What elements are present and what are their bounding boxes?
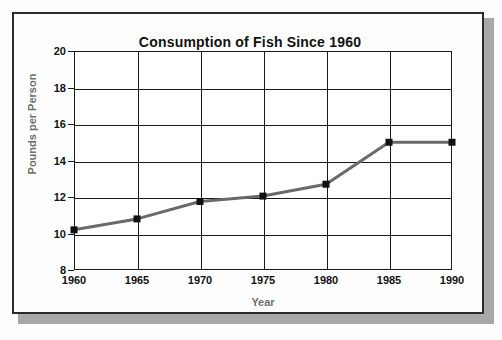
x-axis-tick-label: 1990 (440, 274, 464, 286)
y-axis-tick-label: 16 (40, 118, 66, 130)
data-point-marker (197, 198, 204, 205)
y-axis-tick-labels: 8101214161820 (36, 51, 66, 270)
x-axis-tick-label: 1960 (62, 274, 86, 286)
x-axis-tick-label: 1970 (188, 274, 212, 286)
x-axis-tick-label: 1965 (125, 274, 149, 286)
y-axis-tick-mark (68, 270, 74, 271)
x-axis-tick-label: 1980 (314, 274, 338, 286)
data-point-marker (260, 193, 267, 200)
data-point-marker (71, 226, 78, 233)
page-title: Consumption of Fish Since 1960 (14, 34, 486, 50)
y-axis-tick-label: 14 (40, 155, 66, 167)
data-point-marker (134, 215, 141, 222)
x-axis-tick-label: 1975 (251, 274, 275, 286)
x-axis-tick-label: 1985 (377, 274, 401, 286)
series-line (74, 142, 452, 230)
chart-page: Consumption of Fish Since 1960 Pounds pe… (0, 0, 502, 340)
y-axis-tick-label: 20 (40, 45, 66, 57)
y-axis-tick-label: 10 (40, 228, 66, 240)
y-axis-label-wrapper: Pounds per Person (14, 14, 15, 15)
y-axis-tick-label: 18 (40, 82, 66, 94)
x-axis-label: Year (74, 296, 452, 308)
data-point-marker (323, 181, 330, 188)
data-series-layer (74, 51, 452, 270)
y-axis-tick-label: 12 (40, 191, 66, 203)
x-axis-tick-labels: 1960196519701975198019851990 (74, 274, 452, 290)
chart-card: Consumption of Fish Since 1960 Pounds pe… (12, 12, 484, 314)
data-point-marker (449, 139, 456, 146)
data-point-marker (386, 139, 393, 146)
